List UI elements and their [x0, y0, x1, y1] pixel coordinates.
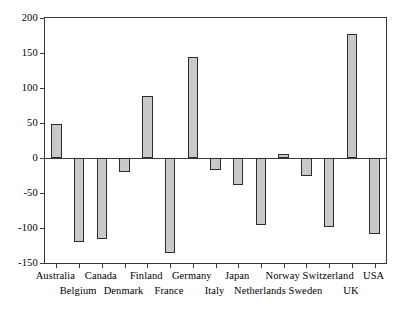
x-tick-label: Sweden	[289, 286, 323, 297]
x-tick-label: Australia	[36, 271, 75, 282]
x-axis-labels: AustraliaBelgiumCanadaDenmarkFinlandFran…	[44, 264, 387, 310]
y-tick-label: 100	[22, 83, 38, 94]
bar	[256, 158, 266, 225]
y-tick-label: -50	[23, 188, 38, 199]
y-tick-label: 200	[22, 13, 38, 24]
y-tick-label: 150	[22, 48, 38, 59]
x-tick-label: France	[154, 286, 183, 297]
x-tick-label: Canada	[85, 271, 117, 282]
plot-area: -150-100-50050100150200	[44, 17, 387, 264]
bar	[210, 158, 220, 170]
bar	[233, 158, 243, 185]
x-tick-label: Denmark	[104, 286, 144, 297]
y-tick-label: 0	[33, 153, 38, 164]
y-tick-mark	[40, 88, 45, 89]
x-tick-label: Germany	[172, 271, 212, 282]
y-tick-label: -150	[18, 258, 38, 269]
bar	[74, 158, 84, 242]
bar-chart: -150-100-50050100150200 AustraliaBelgium…	[0, 0, 403, 314]
x-tick-label: Finland	[130, 271, 163, 282]
bar	[119, 158, 129, 172]
bar	[301, 158, 311, 176]
bar	[324, 158, 334, 227]
x-tick-label: Switzerland	[303, 271, 354, 282]
y-tick-mark	[40, 228, 45, 229]
x-tick-label: USA	[363, 271, 384, 282]
bar	[97, 158, 107, 239]
y-tick-label: 50	[27, 118, 38, 129]
bar	[165, 158, 175, 253]
bar	[369, 158, 379, 234]
bar	[188, 57, 198, 159]
y-tick-mark	[40, 193, 45, 194]
x-tick-label: Netherlands	[234, 286, 286, 297]
y-tick-label: -100	[18, 223, 38, 234]
y-tick-mark	[40, 53, 45, 54]
bar	[142, 96, 152, 158]
x-tick-label: Japan	[225, 271, 249, 282]
bar	[278, 154, 288, 158]
bar	[347, 34, 357, 158]
y-tick-mark	[40, 18, 45, 19]
y-tick-mark	[40, 123, 45, 124]
x-tick-label: Belgium	[60, 286, 97, 297]
x-tick-label: UK	[343, 286, 358, 297]
y-tick-mark	[40, 158, 45, 159]
x-tick-label: Italy	[205, 286, 225, 297]
x-tick-label: Norway	[265, 271, 299, 282]
bar	[51, 124, 61, 158]
